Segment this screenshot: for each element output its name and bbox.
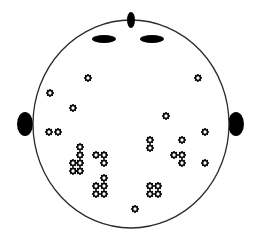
electrode-marker-icon bbox=[100, 182, 108, 190]
left-ear-icon bbox=[17, 112, 33, 136]
electrode-marker-icon bbox=[92, 182, 100, 190]
electrode-marker-icon bbox=[100, 159, 108, 167]
electrode-marker-icon bbox=[84, 74, 92, 82]
head-diagram bbox=[0, 0, 254, 241]
electrode-marker-icon bbox=[46, 89, 54, 97]
electrode-marker-icon bbox=[100, 151, 108, 159]
nose-marker bbox=[127, 12, 135, 28]
electrode-marker-icon bbox=[146, 144, 154, 152]
electrode-marker-icon bbox=[178, 151, 186, 159]
electrode-marker-icon bbox=[54, 128, 62, 136]
electrode-marker-icon bbox=[69, 167, 77, 175]
head-outline bbox=[33, 20, 229, 228]
electrode-marker-icon bbox=[92, 151, 100, 159]
electrode-marker-icon bbox=[162, 112, 170, 120]
right-ear-icon bbox=[228, 112, 244, 136]
electrode-marker-icon bbox=[178, 136, 186, 144]
left-eye-icon bbox=[92, 35, 116, 43]
electrode-marker-icon bbox=[100, 174, 108, 182]
electrode-marker-icon bbox=[154, 182, 162, 190]
electrode-marker-icon bbox=[69, 159, 77, 167]
electrode-marker-icon bbox=[146, 136, 154, 144]
right-eye-icon bbox=[140, 35, 164, 43]
electrode-marker-icon bbox=[76, 151, 84, 159]
electrode-marker-icon bbox=[76, 167, 84, 175]
electrode-marker-icon bbox=[178, 159, 186, 167]
electrode-marker-icon bbox=[45, 128, 53, 136]
electrode-marker-icon bbox=[76, 143, 84, 151]
electrode-marker-icon bbox=[201, 128, 209, 136]
electrode-marker-icon bbox=[194, 74, 202, 82]
electrode-marker-icon bbox=[170, 151, 178, 159]
electrode-marker-icon bbox=[154, 190, 162, 198]
electrode-marker-icon bbox=[100, 190, 108, 198]
electrode-marker-icon bbox=[76, 159, 84, 167]
electrode-marker-icon bbox=[146, 190, 154, 198]
electrode-marker-icon bbox=[201, 159, 209, 167]
head-map-canvas bbox=[0, 0, 254, 241]
electrode-marker-icon bbox=[131, 205, 139, 213]
electrode-marker-icon bbox=[69, 104, 77, 112]
electrode-marker-icon bbox=[146, 182, 154, 190]
electrode-marker-icon bbox=[92, 190, 100, 198]
